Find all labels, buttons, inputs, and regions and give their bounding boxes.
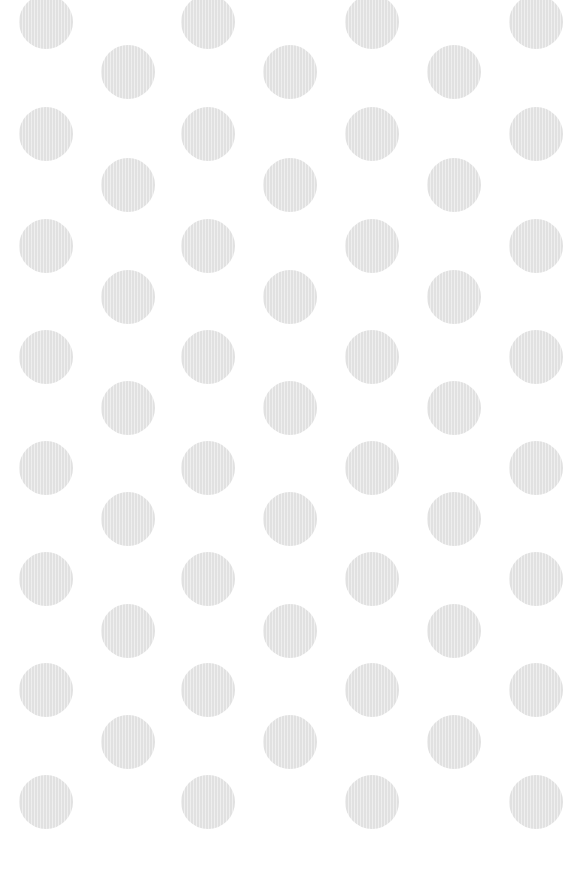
polka-dot — [101, 158, 155, 212]
polka-dot — [509, 0, 563, 49]
polka-dot — [101, 270, 155, 324]
polka-dot — [263, 158, 317, 212]
polka-dot — [181, 219, 235, 273]
polka-dot — [345, 0, 399, 49]
polka-dot — [427, 45, 481, 99]
polka-dot — [19, 330, 73, 384]
polka-dot — [263, 381, 317, 435]
polka-dot — [509, 663, 563, 717]
polka-dot — [181, 441, 235, 495]
polka-dot — [427, 604, 481, 658]
polka-dot — [181, 775, 235, 829]
polka-dot — [263, 45, 317, 99]
polka-dot — [509, 441, 563, 495]
polka-dot — [101, 492, 155, 546]
polka-dot — [19, 663, 73, 717]
polka-dot — [345, 330, 399, 384]
polka-dot — [427, 270, 481, 324]
polka-dot — [263, 604, 317, 658]
polka-dot — [101, 45, 155, 99]
polka-dot — [19, 107, 73, 161]
polka-dot — [19, 775, 73, 829]
polka-dot — [509, 107, 563, 161]
polka-dot — [181, 330, 235, 384]
polka-dot — [345, 552, 399, 606]
polka-dot — [263, 270, 317, 324]
polka-dot — [509, 330, 563, 384]
polka-dot — [181, 0, 235, 49]
polka-dot — [345, 441, 399, 495]
polka-dot — [181, 552, 235, 606]
polka-dot — [345, 663, 399, 717]
polka-dot — [427, 158, 481, 212]
polka-dot — [101, 604, 155, 658]
polka-dot — [509, 775, 563, 829]
polka-dot — [181, 107, 235, 161]
polka-dot — [181, 663, 235, 717]
polka-dot — [427, 492, 481, 546]
polka-dot — [19, 441, 73, 495]
polka-dot — [427, 381, 481, 435]
polka-dot — [263, 715, 317, 769]
polka-dot — [263, 492, 317, 546]
polka-dot — [509, 552, 563, 606]
polka-dot — [345, 219, 399, 273]
polka-dot — [345, 775, 399, 829]
polka-dot-background — [0, 0, 584, 871]
polka-dot — [19, 219, 73, 273]
polka-dot — [19, 0, 73, 49]
polka-dot — [101, 715, 155, 769]
polka-dot — [345, 107, 399, 161]
polka-dot — [509, 219, 563, 273]
polka-dot — [19, 552, 73, 606]
polka-dot — [427, 715, 481, 769]
polka-dot — [101, 381, 155, 435]
